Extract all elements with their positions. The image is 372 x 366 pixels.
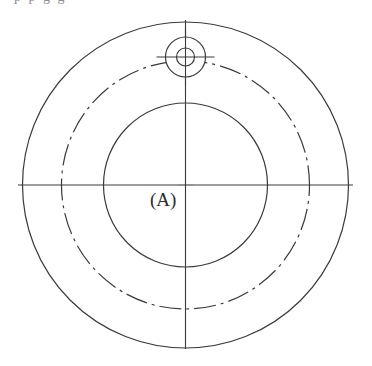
technical-drawing-figure: p p g g (A): [0, 0, 372, 366]
part-label: (A): [150, 189, 176, 211]
drawing-canvas: (A): [0, 0, 372, 366]
